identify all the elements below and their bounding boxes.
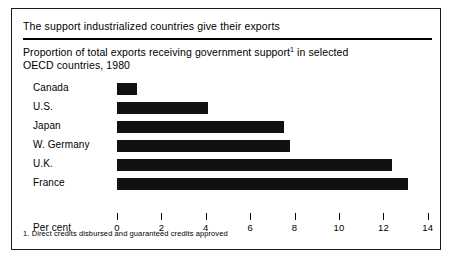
x-axis-tick-label: 10 <box>329 222 349 233</box>
bar <box>117 159 392 171</box>
bar-category-label: W. Germany <box>33 139 90 150</box>
x-axis-tick <box>206 213 207 220</box>
bar <box>117 140 290 152</box>
subtitle-text-part2: in selected <box>294 46 348 58</box>
chart-figure: The support industrialized countries giv… <box>11 8 441 250</box>
bar <box>117 121 284 133</box>
x-axis-tick <box>250 213 251 220</box>
x-axis-tick <box>295 213 296 220</box>
x-axis-tick-label: 12 <box>373 222 393 233</box>
bar-category-label: Japan <box>33 120 61 131</box>
bar <box>117 83 137 95</box>
bar-category-label: Canada <box>33 82 69 93</box>
bar-category-label: U.K. <box>33 158 53 169</box>
bar-category-label: France <box>33 177 65 188</box>
chart-footnote: 1. Direct credits disbursed and guarante… <box>23 229 228 238</box>
bar <box>117 178 408 190</box>
subtitle-line2: OECD countries, 1980 <box>23 59 130 71</box>
title-divider <box>23 38 432 40</box>
subtitle-text-part1: Proportion of total exports receiving go… <box>23 46 290 58</box>
x-axis-tick <box>339 213 340 220</box>
bar-category-label: U.S. <box>33 101 53 112</box>
x-axis-tick-label: 14 <box>418 222 438 233</box>
bar <box>117 102 208 114</box>
x-axis-tick-label: 6 <box>240 222 260 233</box>
x-axis-tick-label: 8 <box>285 222 305 233</box>
x-axis-tick <box>428 213 429 220</box>
chart-title: The support industrialized countries giv… <box>23 20 280 32</box>
chart-subtitle: Proportion of total exports receiving go… <box>23 46 423 72</box>
x-axis-tick <box>117 213 118 220</box>
bar-chart-plot-area: CanadaU.S.JapanW. GermanyU.K.France <box>12 79 442 219</box>
x-axis-tick <box>161 213 162 220</box>
x-axis-tick <box>383 213 384 220</box>
